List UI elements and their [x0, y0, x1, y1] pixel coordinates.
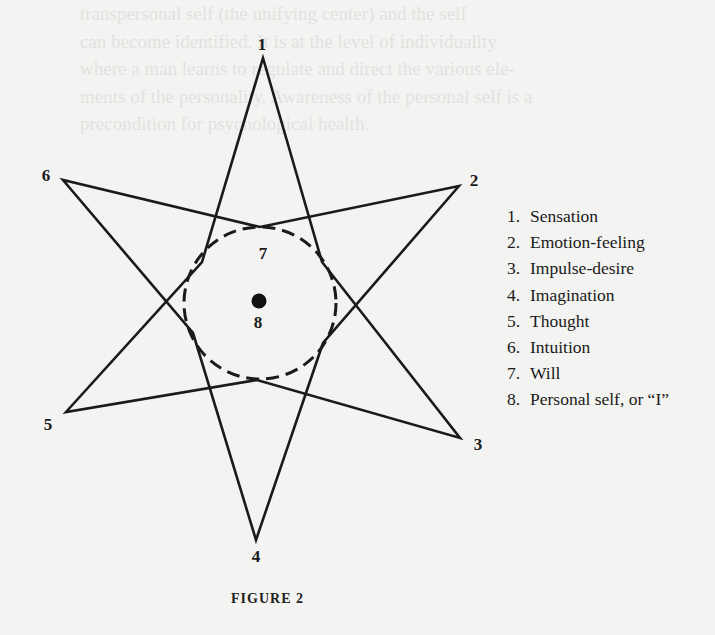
will-label: 7 — [259, 244, 268, 263]
legend-item: 4.Imagination — [507, 282, 669, 308]
figure-caption: FIGURE 2 — [210, 591, 325, 607]
legend: 1.Sensation 2.Emotion-feeling 3.Impulse-… — [507, 203, 669, 413]
vertex-label-5: 5 — [44, 415, 53, 434]
vertex-label-2: 2 — [470, 171, 479, 190]
vertex-label-3: 3 — [474, 435, 483, 454]
legend-item: 8.Personal self, or “I” — [507, 386, 669, 412]
self-label: 8 — [254, 313, 263, 332]
vertex-label-6: 6 — [42, 166, 51, 185]
vertex-label-1: 1 — [258, 35, 267, 54]
legend-item: 5.Thought — [507, 308, 669, 334]
legend-item: 1.Sensation — [507, 203, 669, 229]
legend-item: 2.Emotion-feeling — [507, 229, 669, 255]
legend-item: 6.Intuition — [507, 334, 669, 360]
legend-item: 7.Will — [507, 360, 669, 386]
personal-self-dot — [252, 294, 267, 309]
vertex-label-4: 4 — [252, 547, 261, 566]
legend-item: 3.Impulse-desire — [507, 255, 669, 281]
